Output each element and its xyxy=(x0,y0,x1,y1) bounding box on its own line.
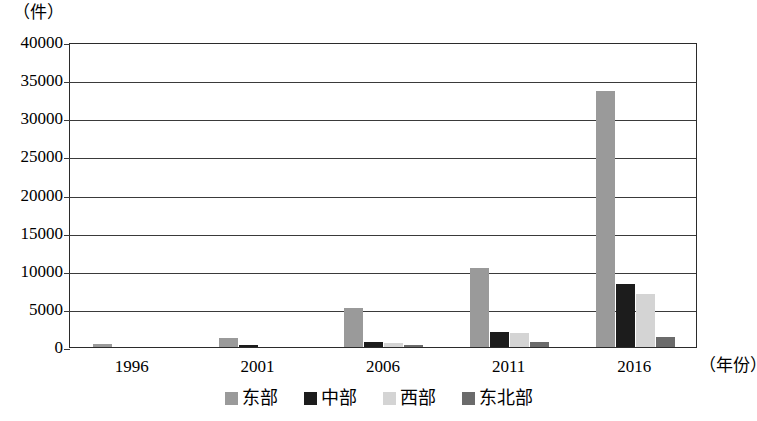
bar-2011-西部 xyxy=(510,333,529,347)
y-axis-tick-label: 40000 xyxy=(21,34,64,51)
bar-2016-东部 xyxy=(596,91,615,347)
y-axis-tick-label: 5000 xyxy=(29,301,63,318)
bar-1996-东部 xyxy=(93,344,112,347)
legend-swatch-icon xyxy=(383,392,396,405)
legend-entry-东北部[interactable]: 东北部 xyxy=(462,388,533,408)
x-axis-tick-label-2001: 2001 xyxy=(195,357,321,377)
legend-label: 东北部 xyxy=(479,388,533,408)
bar-group-2011 xyxy=(447,44,573,347)
x-axis-tick-label-2011: 2011 xyxy=(446,357,572,377)
legend-swatch-icon xyxy=(225,392,238,405)
y-axis-tick-label: 25000 xyxy=(21,148,64,165)
bar-group-2006 xyxy=(321,44,447,347)
y-axis-tick-label: 15000 xyxy=(21,225,64,242)
legend-swatch-icon xyxy=(304,392,317,405)
bar-2006-西部 xyxy=(384,343,403,347)
bar-group-2016 xyxy=(572,44,698,347)
y-axis-tick-label: 20000 xyxy=(21,187,64,204)
legend-entry-西部[interactable]: 西部 xyxy=(383,388,436,408)
bar-2006-东部 xyxy=(344,308,363,347)
bar-2016-东北部 xyxy=(656,337,675,347)
bar-chart-figure: （件） （年份） 东部中部西部东北部 050001000015000200002… xyxy=(0,0,757,421)
x-axis-unit-label: （年份） xyxy=(699,355,757,377)
bar-2001-东部 xyxy=(219,338,238,347)
legend-label: 中部 xyxy=(321,388,357,408)
y-axis-tick-label: 10000 xyxy=(21,263,64,280)
plot-area xyxy=(69,43,697,348)
legend-label: 西部 xyxy=(400,388,436,408)
bar-group-2001 xyxy=(196,44,322,347)
legend-label: 东部 xyxy=(242,388,278,408)
bar-2006-中部 xyxy=(364,342,383,347)
bar-2011-中部 xyxy=(490,332,509,347)
bar-2011-东北部 xyxy=(530,342,549,347)
legend-swatch-icon xyxy=(462,392,475,405)
x-axis-tick-label-2016: 2016 xyxy=(571,357,697,377)
bar-2016-中部 xyxy=(616,284,635,347)
y-axis-unit-label: （件） xyxy=(13,2,64,24)
bar-group-1996 xyxy=(70,44,196,347)
y-axis-tick xyxy=(64,349,70,350)
legend-entry-中部[interactable]: 中部 xyxy=(304,388,357,408)
bar-2001-中部 xyxy=(239,345,258,347)
y-axis-tick-label: 0 xyxy=(55,339,64,356)
y-axis-tick-label: 30000 xyxy=(21,110,64,127)
x-axis-tick-label-1996: 1996 xyxy=(69,357,195,377)
bar-2006-东北部 xyxy=(404,345,423,347)
y-axis-tick-label: 35000 xyxy=(21,72,64,89)
chart-legend: 东部中部西部东北部 xyxy=(0,388,757,408)
x-axis-tick-label-2006: 2006 xyxy=(320,357,446,377)
bar-2016-西部 xyxy=(636,294,655,347)
legend-entry-东部[interactable]: 东部 xyxy=(225,388,278,408)
bar-2011-东部 xyxy=(470,268,489,347)
